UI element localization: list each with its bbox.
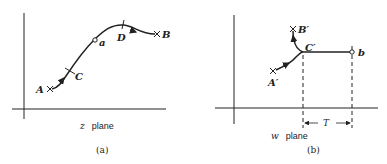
label-D: D — [116, 32, 126, 43]
label-A: A — [35, 84, 44, 95]
label-A-prime: A′ — [267, 77, 279, 88]
point-b-circle-icon — [350, 50, 354, 54]
label-C: C — [75, 71, 83, 82]
panel-a: A C a D B z plane (a) — [12, 13, 170, 155]
label-B: B — [161, 29, 170, 40]
z-plane-label: z plane — [79, 115, 114, 132]
point-a-circle-icon — [93, 38, 97, 42]
label-b: b — [358, 47, 365, 58]
caption-b: (b) — [307, 145, 320, 155]
point-A-prime-cross-icon — [270, 68, 276, 74]
label-C-prime: C′ — [305, 42, 316, 53]
label-B-prime: B′ — [297, 24, 309, 35]
dimension-label-T: T — [323, 118, 330, 128]
w-plane-contour-lower — [276, 52, 303, 70]
direction-arrow-icon — [130, 30, 136, 32]
label-a: a — [99, 37, 105, 48]
caption-a: (a) — [96, 145, 108, 155]
z-plane-contour — [52, 25, 155, 89]
w-plane-label: w plane — [271, 125, 308, 142]
conformal-map-diagram: A C a D B z plane (a) — [0, 0, 387, 164]
panel-b: A′ B′ C′ b T w plane (b) — [215, 15, 378, 155]
